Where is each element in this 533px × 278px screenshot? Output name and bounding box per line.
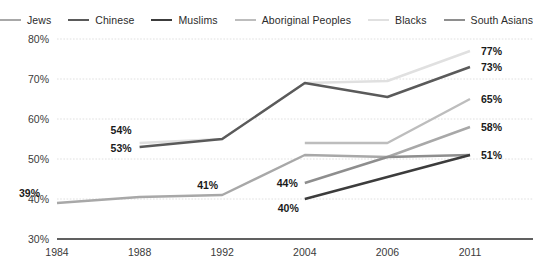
x-axis-tick-label: 1988 — [128, 246, 152, 258]
x-axis-tick-labels: 198419881992200420062011 — [45, 246, 481, 258]
y-axis-tick-label: 80% — [28, 33, 49, 45]
data-point-label: 58% — [481, 121, 503, 133]
x-axis-tick-label: 1984 — [45, 246, 69, 258]
data-point-labels: 39%54%53%41%44%40%77%73%65%58%51% — [19, 45, 503, 214]
x-axis-tick-label: 2004 — [293, 246, 317, 258]
data-point-label: 73% — [481, 61, 503, 73]
y-axis-tick-labels: 30%40%50%60%70%80% — [28, 33, 49, 245]
chart-plot-area: 30%40%50%60%70%80% 198419881992200420062… — [0, 0, 533, 278]
y-axis-tick-label: 50% — [28, 153, 49, 165]
x-axis-tick-label: 1992 — [211, 246, 235, 258]
y-axis-tick-label: 60% — [28, 113, 49, 125]
x-axis-tick-label: 2011 — [459, 246, 482, 258]
data-point-label: 54% — [111, 124, 133, 136]
data-point-label: 41% — [197, 179, 219, 191]
data-point-label: 39% — [19, 187, 41, 199]
y-axis-tick-label: 30% — [28, 233, 49, 245]
data-point-label: 65% — [481, 93, 503, 105]
y-axis-tick-label: 70% — [28, 73, 49, 85]
series-line-blacks — [140, 51, 470, 143]
data-point-label: 51% — [481, 149, 503, 161]
data-point-label: 53% — [111, 142, 133, 154]
data-point-label: 77% — [481, 45, 503, 57]
series-line-jews — [57, 127, 470, 203]
x-axis-tick-label: 2006 — [376, 246, 400, 258]
data-point-label: 40% — [278, 202, 300, 214]
line-chart: JewsChineseMuslimsAboriginal PeoplesBlac… — [0, 0, 533, 278]
data-point-label: 44% — [277, 177, 299, 189]
series-line-muslims — [305, 155, 470, 199]
